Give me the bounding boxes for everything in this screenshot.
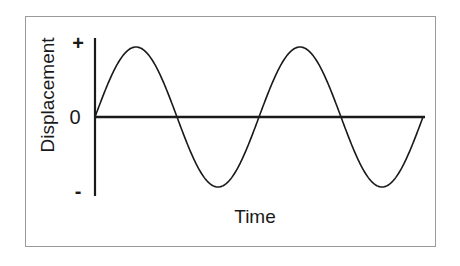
y-tick-label-negative: - xyxy=(68,181,88,201)
x-axis-title: Time xyxy=(185,206,325,228)
y-axis-title-text: Displacement xyxy=(37,37,59,152)
figure-root: + 0 - Displacement Time xyxy=(0,0,460,266)
x-axis-title-text: Time xyxy=(234,206,276,227)
y-tick-label-positive: + xyxy=(68,33,88,53)
y-axis-title: Displacement xyxy=(35,25,61,165)
y-tick-label-zero: 0 xyxy=(64,107,86,127)
